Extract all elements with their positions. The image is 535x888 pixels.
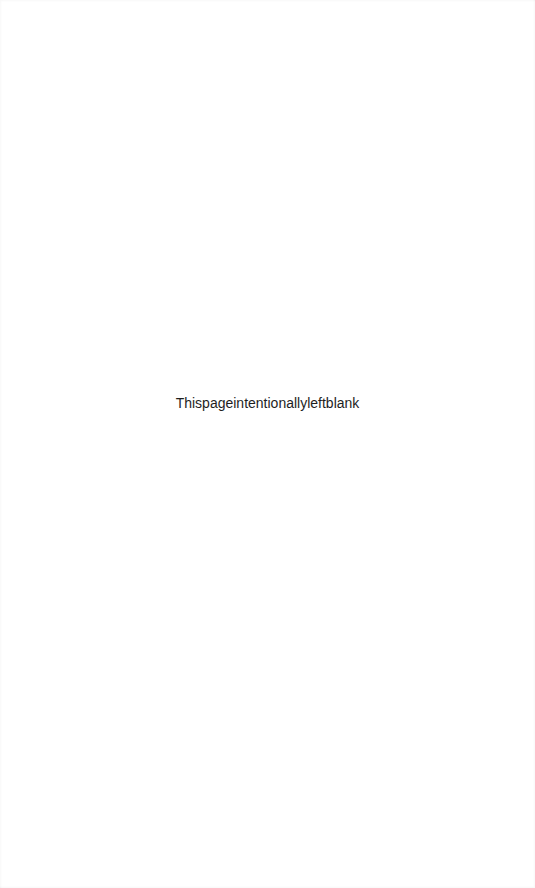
blank-page-notice: Thispageintentionallyleftblank <box>0 395 535 411</box>
document-page: Thispageintentionallyleftblank <box>0 0 535 888</box>
